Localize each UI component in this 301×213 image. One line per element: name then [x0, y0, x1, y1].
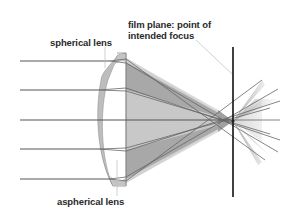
focus-point — [231, 119, 234, 122]
aspherical-lens-label: aspherical lens — [57, 196, 124, 207]
film-plane-label-line2: intended focus — [128, 30, 194, 41]
film-plane-label-line1: film plane: point of — [128, 19, 211, 30]
spherical-lens-label: spherical lens — [50, 37, 112, 48]
